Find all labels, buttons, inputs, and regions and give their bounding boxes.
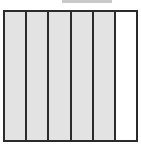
segment-6[interactable] [116, 12, 136, 140]
segmented-box [3, 10, 138, 142]
figure-root [0, 0, 141, 147]
top-marker-bar [62, 0, 112, 3]
segment-5[interactable] [94, 12, 116, 140]
segment-2[interactable] [27, 12, 49, 140]
segment-3[interactable] [49, 12, 71, 140]
segment-4[interactable] [72, 12, 94, 140]
segment-1[interactable] [5, 12, 27, 140]
